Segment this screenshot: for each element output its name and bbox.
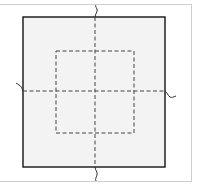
break-symbol-right-icon [165,91,176,97]
break-symbol-bottom-icon [95,167,97,181]
break-symbol-top-icon [95,5,97,17]
centerline-diagram [0,0,199,186]
outer-square [23,17,165,167]
break-symbol-left-icon [16,83,23,91]
